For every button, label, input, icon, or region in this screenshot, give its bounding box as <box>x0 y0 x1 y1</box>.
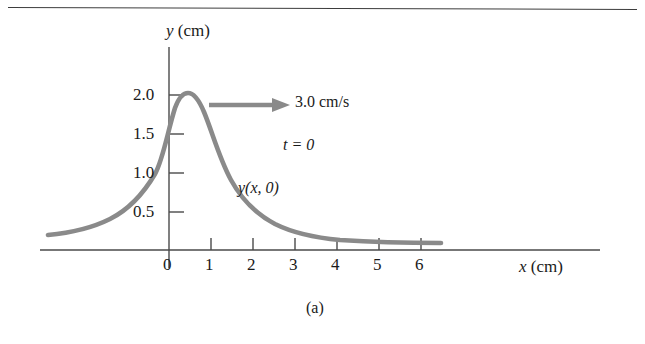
velocity-arrow-icon <box>209 98 290 112</box>
x-tick-label-2: 2 <box>247 256 256 273</box>
y-tick-label-1-5: 1.5 <box>133 125 154 142</box>
x-axis-symbol: x <box>519 257 527 276</box>
curve-function-label: y(x, 0) <box>238 180 279 196</box>
y-axis-title: y (cm) <box>166 22 210 39</box>
time-label: t = 0 <box>283 137 314 153</box>
y-tick-label-2-0: 2.0 <box>133 86 154 103</box>
x-axis-title: x (cm) <box>519 258 563 275</box>
figure-caption: (a) <box>306 300 324 316</box>
x-tick-label-4: 4 <box>331 256 340 273</box>
y-axis-symbol: y <box>166 21 174 40</box>
x-tick-label-6: 6 <box>415 256 424 273</box>
y-axis-unit: (cm) <box>178 21 210 40</box>
wave-speed-unit: cm/s <box>319 93 349 110</box>
x-axis-unit: (cm) <box>531 257 563 276</box>
wave-pulse-curve <box>48 93 441 243</box>
y-tick-label-1-0: 1.0 <box>133 164 154 181</box>
plot-canvas <box>0 0 645 344</box>
x-tick-label-3: 3 <box>289 256 298 273</box>
wave-pulse-figure: y (cm) x (cm) 2.0 1.5 1.0 0.5 0 1 2 3 4 … <box>0 0 645 344</box>
wave-speed-label: 3.0 cm/s <box>295 94 349 110</box>
x-tick-label-0: 0 <box>163 256 172 273</box>
x-tick-label-5: 5 <box>373 256 382 273</box>
x-tick-label-1: 1 <box>205 256 214 273</box>
y-tick-label-0-5: 0.5 <box>133 203 154 220</box>
wave-speed-value: 3.0 <box>295 93 315 110</box>
